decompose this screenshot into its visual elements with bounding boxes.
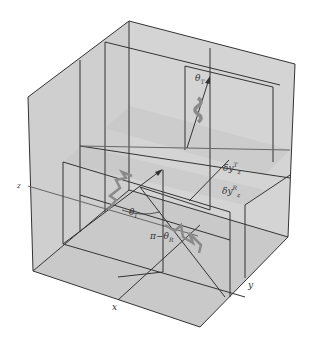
dy-t-label: δyTz [223,162,241,175]
diagram-canvas: θT δyTz δyRz θI π−θR z x y [0,0,314,346]
box-diagram [0,0,314,346]
pi-minus-theta-label: π−θR [150,232,173,243]
dy-r-label: δyRz [222,185,240,198]
theta-i-label: θI [129,208,137,219]
y-axis-label: y [248,281,253,290]
x-axis-label: x [112,303,117,312]
theta-t-label: θT [195,74,204,85]
z-axis-label: z [17,183,21,190]
